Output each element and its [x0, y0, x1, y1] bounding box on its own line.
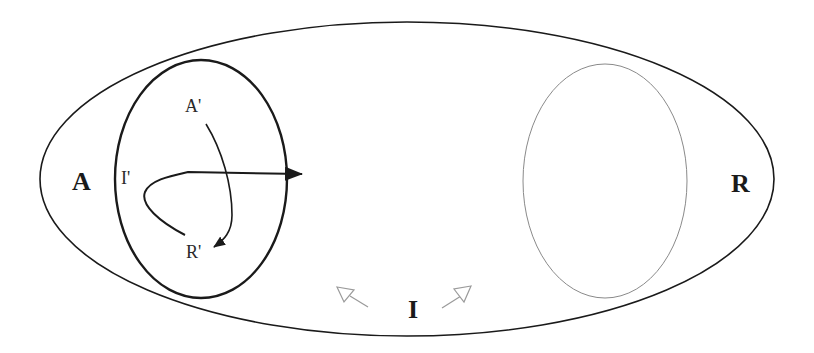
label-outer-left-a: A — [72, 167, 91, 196]
label-inner-bottom-r-prime: R' — [186, 242, 201, 262]
label-outer-bottom-i: I — [408, 295, 418, 324]
diagram-canvas: A R I A' I' R' — [0, 0, 814, 353]
label-outer-right-r: R — [731, 169, 750, 198]
label-inner-left-i-prime: I' — [121, 168, 130, 188]
label-inner-top-a-prime: A' — [185, 96, 201, 116]
